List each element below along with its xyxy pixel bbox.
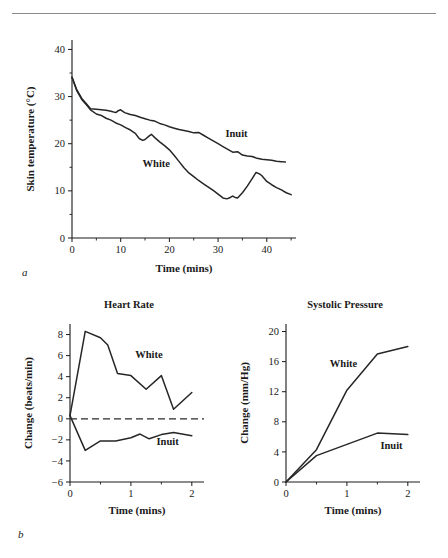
y-tick-label: −6 xyxy=(52,477,63,488)
y-axis-title: Change (beats/min) xyxy=(22,357,35,449)
y-tick-label: −2 xyxy=(52,434,63,445)
y-tick-label: 4 xyxy=(274,447,280,458)
x-tick-label: 0 xyxy=(283,488,288,499)
x-tick-label: 30 xyxy=(213,244,224,255)
x-tick-label: 0 xyxy=(67,488,72,499)
series-label-white: White xyxy=(135,349,163,360)
chart-title: Heart Rate xyxy=(104,299,154,310)
series-line-inuit xyxy=(72,77,285,162)
y-tick-label: 0 xyxy=(58,413,63,424)
y-tick-label: 8 xyxy=(274,416,279,427)
y-tick-label: 20 xyxy=(269,326,280,337)
y-tick-label: 8 xyxy=(58,329,63,340)
y-tick-label: 2 xyxy=(58,392,63,403)
x-tick-label: 20 xyxy=(164,244,175,255)
x-axis-title: Time (mins) xyxy=(109,504,166,517)
top-horizontal-rule xyxy=(12,13,436,14)
y-tick-label: 10 xyxy=(55,185,66,196)
y-axis-title: Skin temperature (°C) xyxy=(24,86,37,191)
x-tick-label: 10 xyxy=(115,244,126,255)
x-axis-title: Time (mins) xyxy=(325,504,382,517)
y-tick-label: 16 xyxy=(269,356,280,367)
x-tick-label: 0 xyxy=(69,244,74,255)
series-line-white xyxy=(70,331,192,415)
y-tick-label: 6 xyxy=(58,350,63,361)
x-axis-title: Time (mins) xyxy=(156,262,213,275)
series-label-white: White xyxy=(330,358,358,369)
chart-systolic-pressure: Systolic Pressure048121620012WhiteInuitT… xyxy=(224,296,440,554)
y-tick-label: 40 xyxy=(55,44,66,55)
series-label-inuit: Inuit xyxy=(225,128,248,139)
chart-skin-temperature: 010203040010203040InuitWhiteTime (mins)S… xyxy=(0,20,320,270)
y-tick-label: 4 xyxy=(58,371,64,382)
y-tick-label: 0 xyxy=(60,233,65,244)
y-tick-label: 20 xyxy=(55,138,66,149)
series-label-white: White xyxy=(143,158,171,169)
y-tick-label: 12 xyxy=(269,386,280,397)
series-label-inuit: Inuit xyxy=(380,440,403,451)
x-tick-label: 40 xyxy=(262,244,273,255)
y-tick-label: 30 xyxy=(55,91,66,102)
y-tick-label: −4 xyxy=(52,456,64,467)
chart-heart-rate: Heart Rate−6−4−202468012WhiteInuitTime (… xyxy=(8,296,224,554)
x-tick-label: 1 xyxy=(344,488,349,499)
x-tick-label: 2 xyxy=(189,488,194,499)
y-axis-title: Change (mm/Hg) xyxy=(238,362,251,444)
chart-title: Systolic Pressure xyxy=(307,299,383,310)
x-tick-label: 1 xyxy=(128,488,133,499)
y-tick-label: 0 xyxy=(274,477,279,488)
series-line-white xyxy=(72,77,291,199)
series-label-inuit: Inuit xyxy=(156,436,179,447)
figure-container: a b 010203040010203040InuitWhiteTime (mi… xyxy=(0,0,448,558)
x-tick-label: 2 xyxy=(405,488,410,499)
